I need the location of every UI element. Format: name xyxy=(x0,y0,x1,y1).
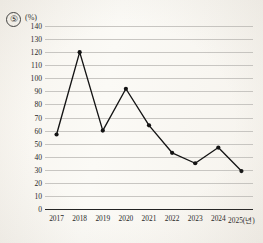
data-point-marker xyxy=(124,87,128,91)
x-axis-tick-label: 2019 xyxy=(95,214,110,223)
x-axis-line xyxy=(45,209,253,210)
chart-page: ⑤ (%) 0102030405060708090100110120130140… xyxy=(0,0,263,243)
data-point-marker xyxy=(216,145,220,149)
y-axis-tick-label: 50 xyxy=(34,139,42,148)
x-axis-tick-label: 2022 xyxy=(165,214,180,223)
x-axis-tick-label: 2025(년) xyxy=(228,214,255,225)
y-axis-tick-label: 120 xyxy=(31,48,42,57)
x-axis-tick-label: 2018 xyxy=(72,214,87,223)
y-axis-tick-label: 130 xyxy=(31,35,42,44)
x-axis-tick-label: 2023 xyxy=(188,214,203,223)
data-point-marker xyxy=(239,169,243,173)
y-axis-tick-label: 30 xyxy=(34,165,42,174)
data-point-marker xyxy=(54,132,58,136)
y-axis-tick-label: 40 xyxy=(34,152,42,161)
data-point-marker xyxy=(101,128,105,132)
data-point-marker xyxy=(78,50,82,54)
y-axis-tick-label: 110 xyxy=(31,61,42,70)
y-axis-tick-label: 0 xyxy=(38,205,42,214)
x-axis-tick-label: 2024 xyxy=(211,214,226,223)
data-point-marker xyxy=(170,151,174,155)
series-line xyxy=(57,52,242,171)
data-series xyxy=(45,26,253,209)
y-axis-tick-label: 80 xyxy=(34,100,42,109)
y-axis-tick-label: 70 xyxy=(34,113,42,122)
plot-area: 0102030405060708090100110120130140 20172… xyxy=(45,26,253,209)
x-axis-tick-label: 2020 xyxy=(118,214,133,223)
data-point-marker xyxy=(193,161,197,165)
y-axis-tick-label: 60 xyxy=(34,126,42,135)
x-axis-tick-label: 2017 xyxy=(49,214,64,223)
question-number-badge: ⑤ xyxy=(6,12,21,27)
data-point-marker xyxy=(147,123,151,127)
y-axis-tick-label: 100 xyxy=(31,74,42,83)
y-axis-tick-label: 140 xyxy=(31,22,42,31)
y-axis-tick-label: 20 xyxy=(34,178,42,187)
y-axis-tick-label: 10 xyxy=(34,191,42,200)
x-axis-tick-label: 2021 xyxy=(142,214,157,223)
y-axis-tick-label: 90 xyxy=(34,87,42,96)
